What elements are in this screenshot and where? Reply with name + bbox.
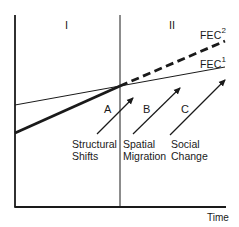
arrow-a	[97, 98, 133, 134]
x-axis-label: Time	[207, 213, 229, 223]
arrow-a-caption-line2: Shifts	[72, 150, 117, 162]
arrow-c-caption-line1: Social	[171, 138, 208, 150]
region-label-1: I	[65, 20, 68, 31]
region-label-2: II	[169, 20, 175, 31]
fec2-label-sup: 2	[222, 26, 227, 35]
fec1-line	[120, 67, 225, 86]
fec2-label: FEC2	[200, 28, 226, 40]
arrow-c-caption-line2: Change	[171, 150, 208, 162]
arrow-b-caption: Spatial Migration	[123, 138, 166, 162]
fec2-label-text: FEC	[200, 29, 222, 41]
arrow-b-caption-line1: Spatial	[123, 138, 166, 150]
arrow-a-caption-line1: Structural	[72, 138, 117, 150]
fec1-label-text: FEC	[200, 58, 222, 70]
arrow-a-letter: A	[104, 104, 111, 115]
arrow-c-caption: Social Change	[171, 138, 208, 162]
arrow-a-caption: Structural Shifts	[72, 138, 117, 162]
arrow-c-letter: C	[181, 104, 189, 115]
fec1-label-sup: 1	[222, 55, 227, 64]
arrow-b-letter: B	[143, 104, 150, 115]
arrow-c	[170, 80, 225, 135]
fec1-label: FEC1	[200, 57, 226, 69]
arrow-b	[133, 88, 180, 134]
arrow-b-caption-line2: Migration	[123, 150, 166, 162]
